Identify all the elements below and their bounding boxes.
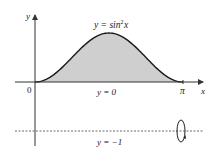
axis-of-rotation-label: y = −1 <box>96 137 122 147</box>
curve-label: y = sin2x <box>93 19 129 30</box>
lower-bound-label: y = 0 <box>96 87 117 97</box>
curve-label-var: x <box>123 20 129 30</box>
curve-label-text: y = sin <box>93 20 121 30</box>
y-axis-label: y <box>25 11 30 21</box>
shaded-region <box>35 33 183 82</box>
figure: y x y = sin2x 0 y = 0 π y = −1 <box>0 0 218 160</box>
x-axis-label: x <box>200 86 205 96</box>
pi-label: π <box>180 86 185 96</box>
origin-label: 0 <box>27 85 32 95</box>
